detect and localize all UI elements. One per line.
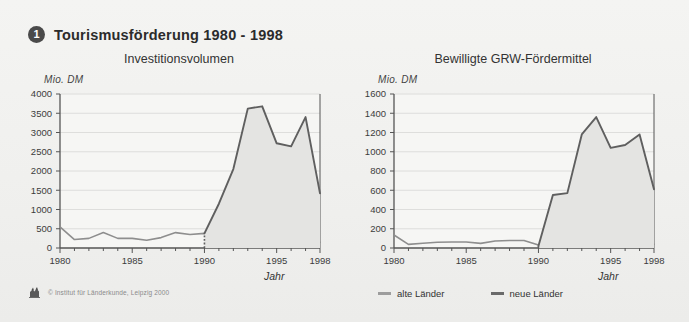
plot-area-left: 0500100015002000250030003500400019801985… [14,86,344,284]
plot-area-right: 0200400600800100012001400160019801985199… [348,86,678,284]
svg-text:1985: 1985 [456,255,477,266]
legend-item-neue-laender: neue Länder [491,288,563,299]
figure-footer: © Institut für Länderkunde, Leipzig 2000 [27,286,169,299]
svg-text:1998: 1998 [643,255,664,266]
svg-text:3000: 3000 [31,127,52,138]
svg-text:1000: 1000 [31,204,52,215]
svg-text:1985: 1985 [122,255,143,266]
figure-header: 1 Tourismusförderung 1980 - 1998 [28,26,283,43]
y-axis-unit-right: Mio. DM [378,74,417,85]
svg-text:400: 400 [370,204,386,215]
svg-text:800: 800 [370,165,386,176]
svg-text:500: 500 [36,223,52,234]
svg-text:0: 0 [381,242,386,253]
svg-text:1995: 1995 [266,255,287,266]
figure-number-badge: 1 [28,26,45,43]
svg-text:4000: 4000 [31,88,52,99]
chart-svg-right: 0200400600800100012001400160019801985199… [348,86,678,284]
legend-swatch-alte-laender [378,292,391,295]
svg-text:1995: 1995 [600,255,621,266]
svg-text:1990: 1990 [194,255,215,266]
x-axis-label-right: Jahr [598,270,618,282]
svg-text:1000: 1000 [365,146,386,157]
svg-text:2000: 2000 [31,165,52,176]
page-title: Tourismusförderung 1980 - 1998 [54,27,283,43]
chart-title-left: Investitionsvolumen [14,52,344,66]
y-axis-unit-left: Mio. DM [44,74,83,85]
copyright-text: © Institut für Länderkunde, Leipzig 2000 [48,289,169,296]
chart-title-right: Bewilligte GRW-Fördermittel [348,52,678,66]
svg-text:3500: 3500 [31,108,52,119]
x-axis-label-left: Jahr [264,270,284,282]
svg-text:1998: 1998 [309,255,330,266]
chart-svg-left: 0500100015002000250030003500400019801985… [14,86,344,284]
svg-text:1980: 1980 [49,255,70,266]
svg-text:1990: 1990 [528,255,549,266]
legend-label-alte-laender: alte Länder [397,288,445,299]
figure-page: 1 Tourismusförderung 1980 - 1998 Investi… [0,0,689,322]
chart-panel-grw-foerdermittel: Bewilligte GRW-Fördermittel Mio. DM 0200… [348,52,678,287]
institute-logo-icon [27,286,42,299]
legend-label-neue-laender: neue Länder [510,288,563,299]
svg-text:1400: 1400 [365,108,386,119]
legend-swatch-neue-laender [491,292,504,295]
svg-text:1980: 1980 [383,255,404,266]
legend-item-alte-laender: alte Länder [378,288,445,299]
chart-legend: alte Länder neue Länder [378,288,563,299]
svg-text:1200: 1200 [365,127,386,138]
svg-text:600: 600 [370,185,386,196]
svg-text:200: 200 [370,223,386,234]
svg-text:1500: 1500 [31,185,52,196]
chart-panel-investitionsvolumen: Investitionsvolumen Mio. DM 050010001500… [14,52,344,287]
svg-text:0: 0 [47,242,52,253]
svg-text:2500: 2500 [31,146,52,157]
svg-text:1600: 1600 [365,88,386,99]
